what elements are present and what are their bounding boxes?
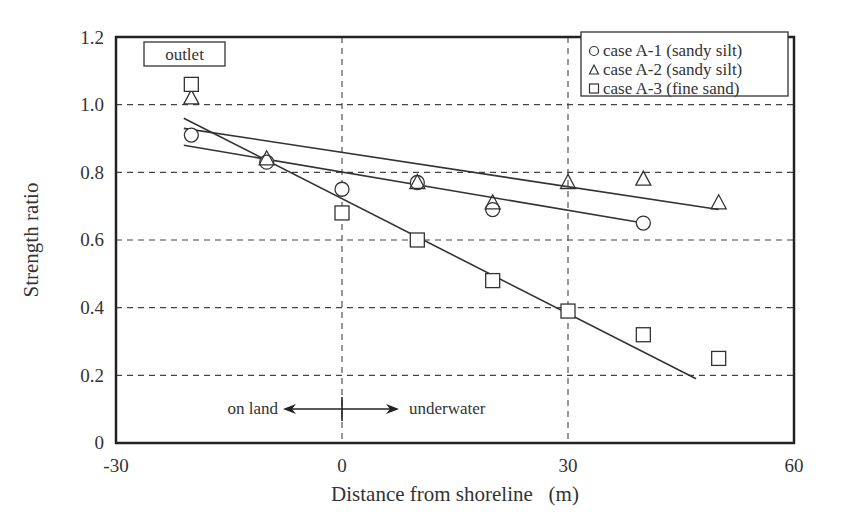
x-tick: 30 <box>559 455 578 476</box>
y-tick-labels: 0 0.2 0.4 0.6 0.8 1.0 1.2 <box>80 27 104 453</box>
y-tick: 0.6 <box>80 229 104 250</box>
triangle-marker-icon <box>711 195 726 209</box>
y-tick: 0 <box>95 432 105 453</box>
y-tick: 0.8 <box>80 162 104 183</box>
y-tick: 0.2 <box>80 365 104 386</box>
outlet-annotation: outlet <box>144 42 225 66</box>
circle-marker-icon <box>184 128 198 142</box>
legend-label: case A-2 (sandy silt) <box>603 60 742 79</box>
y-axis-label: Strength ratio <box>19 183 43 298</box>
square-marker-icon <box>410 233 424 247</box>
triangle-marker-icon <box>636 171 651 185</box>
legend-label: case A-3 (fine sand) <box>603 79 739 98</box>
legend: case A-1 (sandy silt) case A-2 (sandy si… <box>581 32 788 98</box>
on-land-label: on land <box>227 399 278 418</box>
fit-line <box>184 118 696 379</box>
legend-item-a1: case A-1 (sandy silt) <box>590 41 743 60</box>
outlet-label: outlet <box>165 45 204 64</box>
y-tick: 0.4 <box>80 297 104 318</box>
x-tick: 0 <box>337 455 347 476</box>
chart: 0 0.2 0.4 0.6 0.8 1.0 1.2 -30 0 30 60 Di… <box>0 0 841 529</box>
square-marker-icon <box>636 328 650 342</box>
square-marker-icon <box>486 274 500 288</box>
square-marker-icon <box>561 304 575 318</box>
legend-item-a2: case A-2 (sandy silt) <box>590 60 743 79</box>
triangle-marker-icon <box>561 174 576 188</box>
x-tick: 60 <box>785 455 804 476</box>
legend-label: case A-1 (sandy silt) <box>603 41 742 60</box>
y-tick: 1.2 <box>80 27 104 48</box>
circle-marker-icon <box>636 216 650 230</box>
legend-item-a3: case A-3 (fine sand) <box>590 79 740 98</box>
square-marker-icon <box>335 206 349 220</box>
underwater-label: underwater <box>409 399 486 418</box>
shoreline-annotation: on land underwater <box>227 397 485 421</box>
x-tick-labels: -30 0 30 60 <box>103 455 803 476</box>
square-marker-icon <box>184 77 198 91</box>
data-points <box>184 77 726 365</box>
square-marker-icon <box>712 351 726 365</box>
x-tick: -30 <box>103 455 128 476</box>
x-axis-label: Distance from shoreline (m) <box>331 482 579 506</box>
circle-marker-icon <box>335 182 349 196</box>
y-tick: 1.0 <box>80 94 104 115</box>
